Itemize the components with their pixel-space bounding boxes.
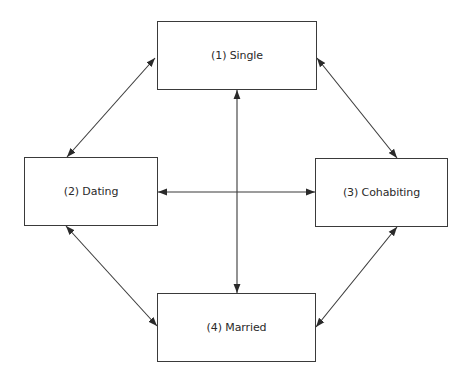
node-cohabiting-label: (3) Cohabiting (343, 186, 420, 199)
state-transition-diagram: (1) Single (2) Dating (3) Cohabiting (4)… (0, 0, 470, 381)
node-single: (1) Single (157, 21, 317, 90)
node-single-label: (1) Single (211, 49, 263, 62)
edge-dating-married (66, 226, 157, 326)
node-cohabiting: (3) Cohabiting (315, 158, 448, 227)
node-dating: (2) Dating (24, 157, 158, 226)
node-dating-label: (2) Dating (64, 185, 119, 198)
node-married: (4) Married (157, 293, 316, 362)
edge-single-cohabiting (317, 58, 397, 158)
edge-cohabiting-married (316, 227, 397, 327)
node-married-label: (4) Married (207, 321, 267, 334)
edge-single-dating (67, 58, 155, 157)
